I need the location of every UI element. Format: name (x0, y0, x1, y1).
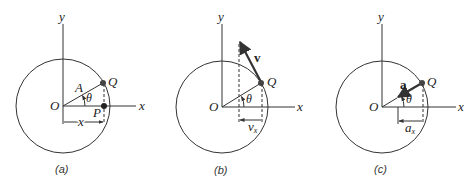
point-q (258, 80, 264, 86)
vx-label: vx (248, 119, 258, 135)
radius-line (222, 83, 261, 107)
angle-label: θ (246, 92, 252, 106)
x-axis-label: x (138, 98, 145, 113)
angle-label: θ (406, 92, 412, 106)
angle-arc (242, 97, 245, 108)
point-p-label: P (92, 105, 101, 120)
uniform-circular-motion-figure: y x O A θ Q P x (a) y x O θ v Q vx (b (0, 0, 473, 185)
caption-c: (c) (374, 163, 387, 175)
y-axis-label: y (376, 9, 384, 24)
y-axis-label: y (57, 9, 65, 24)
caption-a: (a) (55, 163, 69, 175)
panel-a: y x O A θ Q P x (a) (16, 9, 145, 175)
radius-line (63, 83, 103, 106)
velocity-label: v (254, 50, 261, 65)
point-q-label: Q (267, 74, 277, 89)
radius-line (382, 98, 397, 107)
angle-arc (83, 96, 86, 107)
y-axis-label: y (216, 9, 224, 24)
x-axis-label: x (296, 99, 303, 114)
x-axis-label: x (457, 99, 464, 114)
point-p (101, 103, 107, 109)
angle-arc (402, 97, 405, 108)
origin-label: O (369, 99, 379, 114)
acceleration-label: a (400, 77, 407, 92)
origin-label: O (209, 99, 219, 114)
point-q (100, 80, 106, 86)
panel-c: y x O a θ Q ax (c) (336, 9, 464, 175)
ax-label: ax (405, 120, 416, 136)
radius-label: A (74, 80, 83, 95)
x-dimension-label: x (77, 114, 84, 129)
point-q-label: Q (427, 74, 437, 89)
angle-label: θ (86, 91, 92, 105)
origin-label: O (50, 98, 60, 113)
point-q-label: Q (108, 74, 118, 89)
caption-b: (b) (214, 164, 228, 176)
panel-b: y x O θ v Q vx (b) (176, 9, 303, 176)
point-q (419, 80, 425, 86)
